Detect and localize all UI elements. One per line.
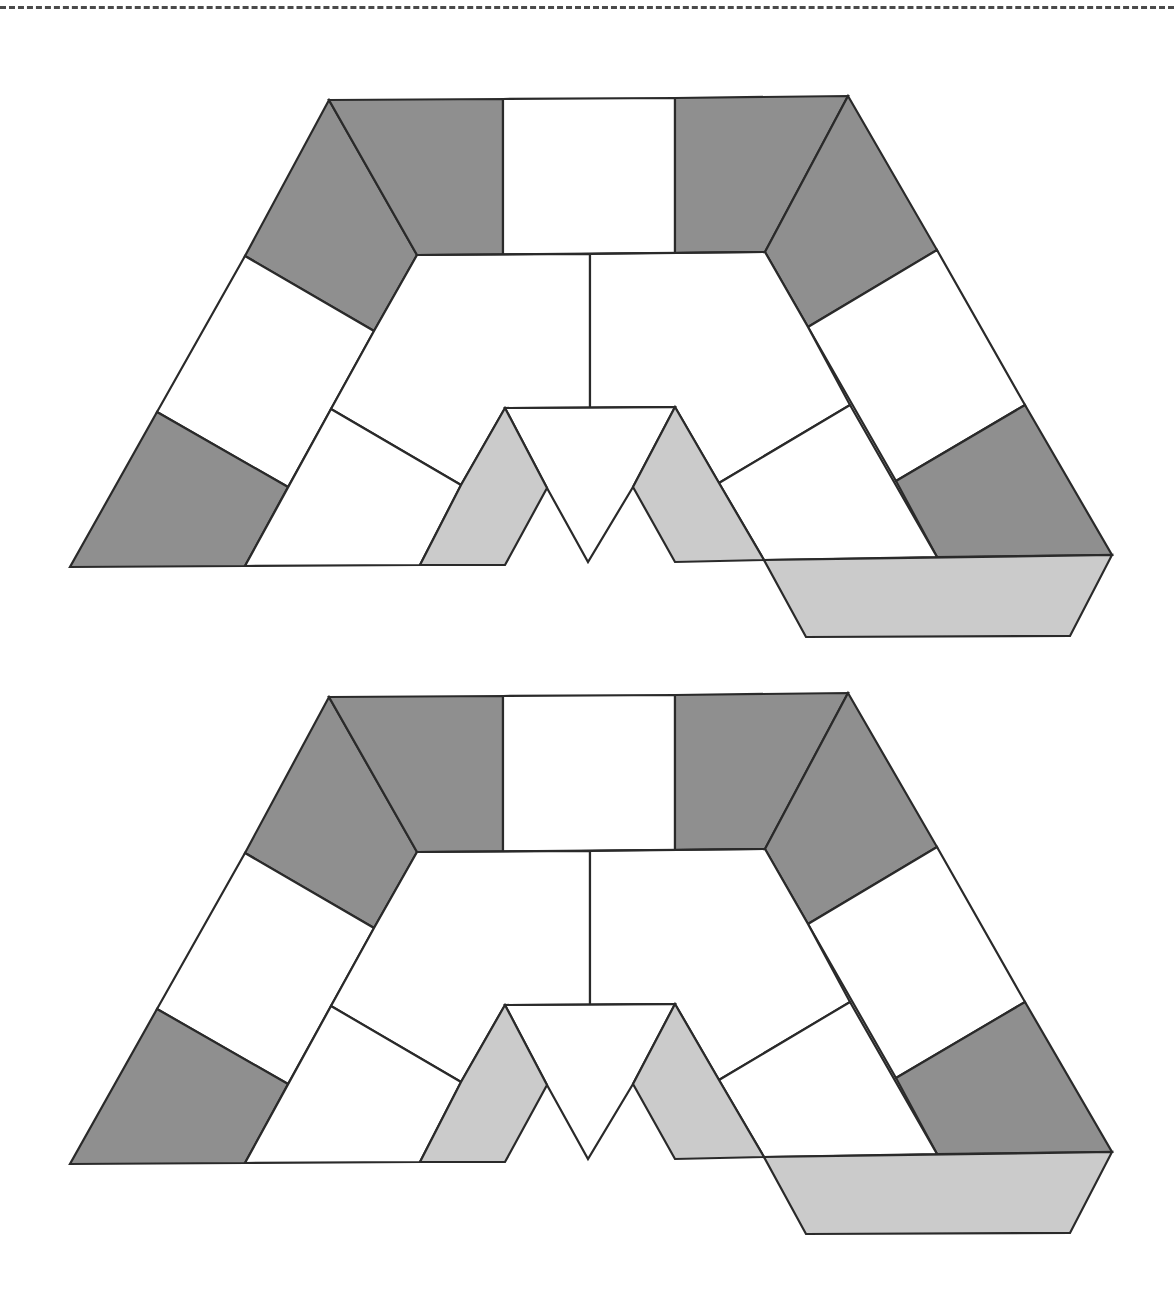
center-top-edge (505, 407, 675, 408)
board-game-path-diagram (0, 0, 1174, 1289)
top-center-white (503, 695, 675, 852)
bottom-light-strip (764, 1152, 1112, 1234)
top-copy (70, 96, 1112, 637)
top-center-white (503, 98, 675, 255)
bottom-copy (70, 693, 1112, 1234)
center-top-edge (505, 1004, 675, 1005)
bottom-light-strip (764, 555, 1112, 637)
